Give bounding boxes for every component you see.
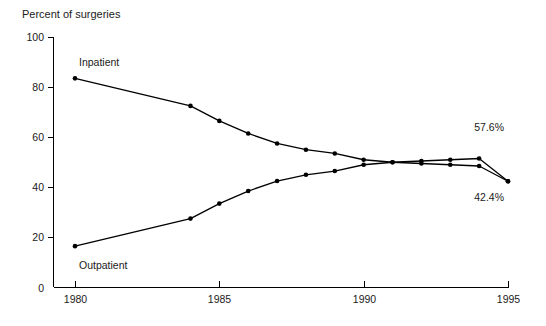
annotation-group: InpatientOutpatient57.6%42.4%: [79, 56, 504, 271]
data-point: [477, 164, 482, 169]
data-point: [246, 131, 251, 136]
x-axis-ticks: 1980198519901995: [64, 281, 521, 305]
data-point: [506, 179, 511, 184]
data-point: [419, 159, 424, 164]
data-point: [246, 189, 251, 194]
data-point: [304, 147, 309, 152]
y-axis-ticks: 020406080100: [26, 31, 53, 294]
series-group: [73, 76, 511, 248]
x-tick-label-1980: 1980: [64, 293, 88, 305]
annotation-inpatient: Inpatient: [79, 56, 119, 68]
y-tick-label-60: 60: [32, 131, 44, 143]
data-point: [217, 119, 222, 124]
annotation-424: 42.4%: [474, 191, 504, 203]
y-tick-label-0: 0: [38, 282, 44, 294]
x-tick-label-1995: 1995: [497, 293, 521, 305]
chart-container: Percent of surgeries 020406080100 198019…: [0, 0, 546, 326]
data-point: [304, 172, 309, 177]
data-point: [361, 162, 366, 167]
data-point: [333, 169, 338, 174]
annotation-576: 57.6%: [474, 121, 504, 133]
line-chart: 020406080100 1980198519901995 InpatientO…: [0, 0, 546, 326]
data-point: [361, 157, 366, 162]
series-line-outpatient: [75, 158, 508, 246]
data-point: [390, 160, 395, 165]
data-point: [188, 104, 193, 109]
y-tick-label-20: 20: [32, 231, 44, 243]
y-tick-label-40: 40: [32, 181, 44, 193]
annotation-outpatient: Outpatient: [79, 259, 128, 271]
data-point: [275, 179, 280, 184]
data-point: [73, 76, 78, 81]
x-tick-label-1990: 1990: [353, 293, 377, 305]
data-point: [275, 141, 280, 146]
data-point: [217, 201, 222, 206]
series-line-inpatient: [75, 78, 508, 181]
data-point: [448, 162, 453, 167]
x-tick-label-1985: 1985: [208, 293, 232, 305]
data-point: [333, 151, 338, 156]
y-tick-label-80: 80: [32, 81, 44, 93]
data-point: [448, 157, 453, 162]
y-tick-label-100: 100: [26, 31, 44, 43]
data-point: [477, 156, 482, 161]
data-point: [188, 216, 193, 221]
data-point: [73, 244, 78, 249]
